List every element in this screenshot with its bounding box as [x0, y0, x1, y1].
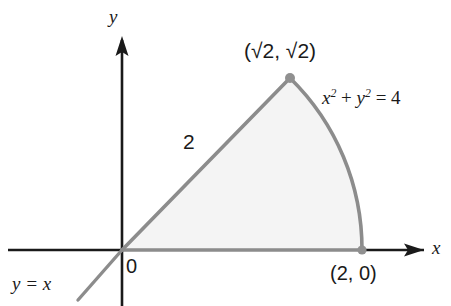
circle-eq-rhs: 4	[391, 87, 401, 108]
circle-equation-label: x2 + y2 = 4	[322, 88, 401, 107]
line-equation-label: y = x	[12, 274, 51, 293]
circle-eq-y: y	[357, 87, 365, 108]
x-axis-label: x	[432, 238, 440, 257]
circle-eq-equals: =	[376, 87, 387, 108]
point-marker-x-intercept	[357, 245, 366, 254]
y-axis-label: y	[109, 7, 117, 26]
line-y-equals-x-extension	[78, 250, 122, 300]
origin-label: 0	[126, 256, 137, 276]
circle-eq-plus: +	[341, 87, 352, 108]
radius-length-label: 2	[183, 131, 195, 152]
apex-point-text: (√2, √2)	[244, 39, 316, 62]
math-diagram	[0, 0, 451, 306]
point-marker-apex	[285, 73, 295, 83]
apex-point-label: (√2, √2)	[244, 40, 316, 61]
x-intercept-point-label: (2, 0)	[330, 263, 377, 283]
